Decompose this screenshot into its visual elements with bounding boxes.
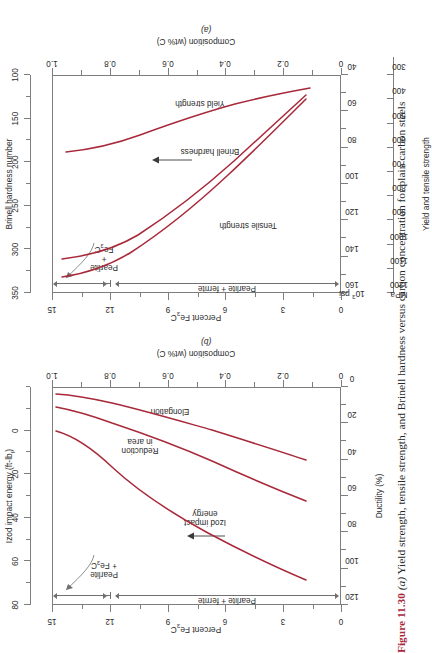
curve-yield-strength	[66, 88, 310, 152]
curves-panel-b	[0, 341, 432, 653]
curves-panel-a	[0, 35, 432, 335]
curve-tensile-strength	[62, 99, 306, 277]
figure-page: 80 60 40 20 0 Izod impact energy (ft-lbf…	[0, 0, 432, 653]
curve-elongation	[56, 394, 306, 460]
figure-number: Figure 11.30	[395, 593, 407, 653]
figure-caption: Figure 11.30 (a) Yield strength, tensile…	[394, 13, 409, 653]
curve-izod-impact-energy	[56, 431, 306, 580]
chart-panel-a: 350 300 250 200 150 100 Brinell hardness…	[0, 35, 432, 335]
chart-panel-b: 80 60 40 20 0 Izod impact energy (ft-lbf…	[0, 341, 432, 653]
panel-label-a: (a)	[201, 25, 211, 35]
caption-part-marker: (a)	[395, 577, 407, 590]
caption-text: Yield strength, tensile strength, and Br…	[395, 102, 407, 577]
